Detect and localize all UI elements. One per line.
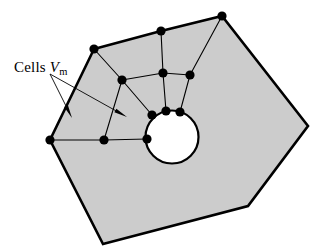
cells-vm-label: Cells Vm — [14, 60, 67, 77]
figure-container: Cells Vm — [0, 0, 325, 252]
cells-label-subscript: m — [59, 66, 67, 77]
mesh-diagram — [0, 0, 325, 252]
node-top-left-vertex — [89, 44, 98, 53]
node-top-right-vertex — [217, 11, 226, 20]
node-interior-hub — [158, 68, 167, 77]
node-hole-upper-left — [147, 110, 156, 119]
cells-label-prefix: Cells — [14, 59, 50, 75]
node-interior-center — [117, 75, 126, 84]
node-hole-top — [161, 106, 170, 115]
node-hole-top-right — [175, 107, 184, 116]
node-left-vertex — [45, 135, 54, 144]
cells-label-variable: V — [50, 59, 59, 75]
node-top-mid-vertex — [156, 26, 165, 35]
node-lower-left — [99, 135, 108, 144]
node-hole-left — [142, 134, 151, 143]
node-interior-right — [185, 70, 194, 79]
